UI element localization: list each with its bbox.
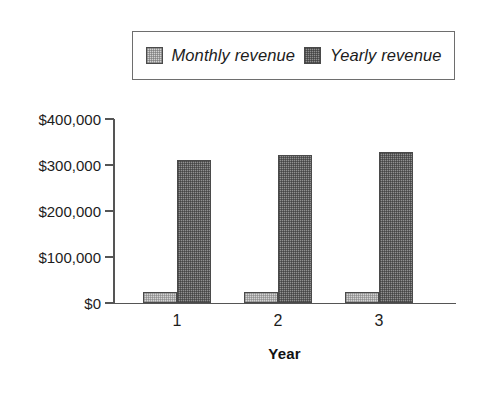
- x-axis-category-label: 3: [349, 312, 409, 330]
- bar-monthly-year-3: [345, 292, 379, 304]
- y-axis-tick-label: $100,000: [1, 249, 101, 266]
- bar-yearly-year-1: [177, 160, 211, 303]
- y-axis-tick-label: $0: [1, 295, 101, 312]
- bar-chart: Monthly revenue Yearly revenue $0$100,00…: [0, 0, 495, 395]
- y-axis-tick: [105, 164, 114, 166]
- plot-area: $0$100,000$200,000$300,000$400,000 123 Y…: [0, 0, 495, 395]
- y-axis-tick-label: $200,000: [1, 203, 101, 220]
- y-axis-tick-label: $300,000: [1, 157, 101, 174]
- y-axis-tick-label: $400,000: [1, 111, 101, 128]
- bar-monthly-year-2: [244, 292, 278, 303]
- bar-monthly-year-1: [143, 292, 177, 303]
- y-axis-tick: [105, 118, 114, 120]
- y-axis-tick: [105, 210, 114, 212]
- bar-yearly-year-3: [379, 152, 413, 303]
- bar-yearly-year-2: [278, 155, 312, 303]
- x-axis-category-label: 2: [248, 312, 308, 330]
- y-axis-tick: [105, 256, 114, 258]
- x-axis-title: Year: [113, 345, 456, 362]
- y-axis-tick: [105, 302, 114, 304]
- x-axis-category-label: 1: [147, 312, 207, 330]
